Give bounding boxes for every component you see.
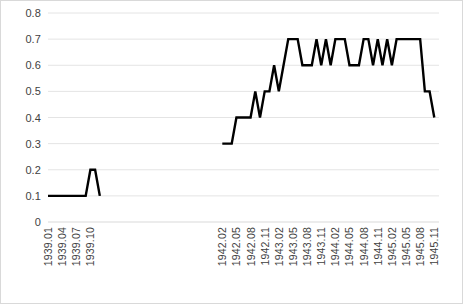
x-tick-label: 1939.07	[70, 227, 82, 266]
x-tick-label: 1943.08	[301, 227, 313, 266]
x-tick-label: 1939.04	[56, 227, 68, 266]
series-segment	[48, 170, 100, 196]
y-tick-label: 0.1	[25, 190, 41, 202]
plot-area: 00.10.20.30.40.50.60.70.8	[48, 13, 439, 222]
x-tick-label: 1942.08	[245, 227, 257, 266]
x-tick-label: 1942.02	[216, 227, 228, 266]
x-tick-label: 1942.11	[259, 227, 271, 266]
x-axis-tick-labels: 1939.011939.041939.071939.101942.021942.…	[48, 227, 439, 299]
x-tick-label: 1944.02	[329, 227, 341, 266]
x-tick-label: 1944.05	[343, 227, 355, 266]
y-tick-label: 0.4	[25, 112, 41, 124]
x-tick-label: 1942.05	[230, 227, 242, 266]
x-tick-label: 1945.11	[428, 227, 440, 266]
x-tick-label: 1944.11	[372, 227, 384, 266]
y-tick-label: 0	[35, 216, 41, 228]
y-tick-label: 0.8	[25, 7, 41, 19]
x-tick-label: 1945.02	[386, 227, 398, 266]
x-tick-label: 1945.05	[400, 227, 412, 266]
x-tick-label: 1939.01	[42, 227, 54, 266]
x-tick-label: 1943.11	[315, 227, 327, 266]
data-series-line	[48, 13, 439, 222]
y-tick-label: 0.6	[25, 59, 41, 71]
chart-frame: 00.10.20.30.40.50.60.70.8 1939.011939.04…	[0, 0, 463, 304]
x-tick-label: 1939.10	[84, 227, 96, 266]
x-tick-label: 1943.05	[287, 227, 299, 266]
x-tick-label: 1943.02	[273, 227, 285, 266]
y-tick-label: 0.3	[25, 138, 41, 150]
y-tick-label: 0.5	[25, 85, 41, 97]
y-tick-label: 0.7	[25, 33, 41, 45]
x-tick-label: 1944.08	[358, 227, 370, 266]
series-segment	[222, 39, 434, 144]
x-tick-label: 1945.08	[414, 227, 426, 266]
y-tick-label: 0.2	[25, 164, 41, 176]
